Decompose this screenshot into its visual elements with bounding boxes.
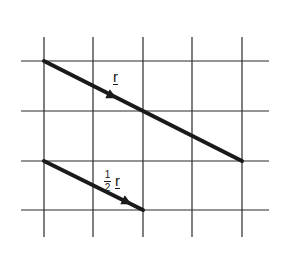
fraction-one-half: 1 2 (104, 170, 111, 193)
fraction-denominator: 2 (105, 183, 111, 193)
vector-r-symbol: r (115, 172, 120, 189)
fraction-numerator: 1 (105, 170, 111, 180)
vector-r-label: r (113, 68, 118, 85)
diagram-canvas (0, 0, 285, 259)
vector-half-r-label: 1 2 r (104, 170, 120, 193)
